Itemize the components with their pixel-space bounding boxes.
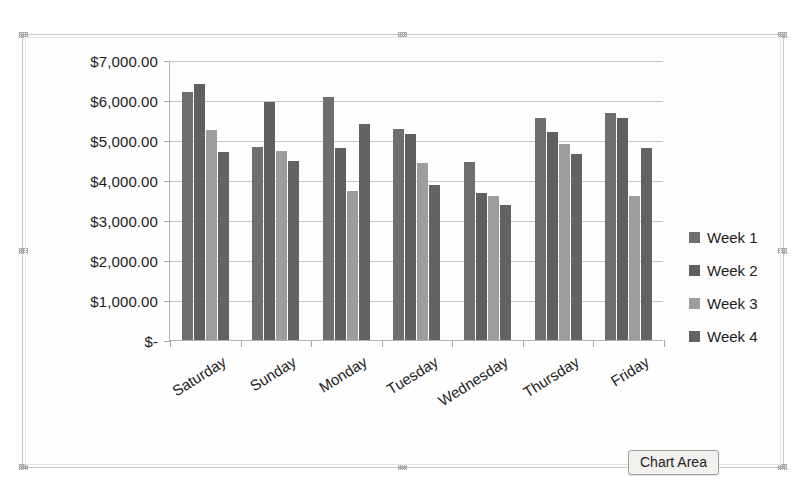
y-axis-label: $7,000.00	[90, 53, 158, 70]
x-axis-tick	[382, 340, 383, 347]
bar[interactable]	[393, 129, 404, 340]
bar[interactable]	[335, 148, 346, 340]
bar-group	[170, 61, 241, 340]
bar[interactable]	[629, 196, 640, 340]
bar[interactable]	[571, 154, 582, 340]
x-axis-category-label: Friday	[608, 353, 652, 390]
bar[interactable]	[488, 196, 499, 340]
bar-group	[382, 61, 453, 340]
bar[interactable]	[218, 152, 229, 340]
bar[interactable]	[276, 151, 287, 340]
bar[interactable]	[547, 132, 558, 340]
chart-legend[interactable]: Week 1Week 2Week 3Week 4	[689, 221, 781, 353]
y-axis-label: $6,000.00	[90, 93, 158, 110]
y-axis-label: $-	[144, 333, 158, 350]
chart-object[interactable]: $7,000.00$6,000.00$5,000.00$4,000.00$3,0…	[22, 34, 784, 468]
bar[interactable]	[476, 193, 487, 340]
bar-group	[452, 61, 523, 340]
x-axis-tick	[452, 340, 453, 347]
legend-label: Week 1	[707, 229, 758, 246]
legend-item[interactable]: Week 3	[689, 287, 781, 320]
bar[interactable]	[194, 84, 205, 340]
bar[interactable]	[617, 118, 628, 340]
legend-item[interactable]: Week 2	[689, 254, 781, 287]
y-axis-label: $4,000.00	[90, 173, 158, 190]
bar[interactable]	[641, 148, 652, 340]
x-axis-category-label: Wednesday	[435, 353, 511, 409]
legend-label: Week 3	[707, 295, 758, 312]
selection-handle-top-left[interactable]	[19, 32, 28, 38]
plot-area[interactable]	[169, 61, 663, 341]
bar-group	[523, 61, 594, 340]
bar[interactable]	[417, 163, 428, 340]
bar[interactable]	[359, 124, 370, 340]
selection-handle-top-center[interactable]	[398, 32, 407, 38]
bar[interactable]	[323, 97, 334, 340]
chart-area-tooltip: Chart Area	[628, 450, 719, 475]
x-axis-tick	[170, 340, 171, 347]
x-axis-category-label: Monday	[316, 353, 370, 396]
bar[interactable]	[288, 161, 299, 340]
bar-group	[593, 61, 664, 340]
x-axis-tick	[523, 340, 524, 347]
x-axis-tick	[311, 340, 312, 347]
bar[interactable]	[206, 130, 217, 340]
selection-handle-bottom-center[interactable]	[398, 464, 407, 470]
y-axis-label: $1,000.00	[90, 293, 158, 310]
selection-handle-middle-left[interactable]	[19, 248, 28, 254]
x-axis-category-label: Thursday	[520, 353, 582, 401]
selection-handle-bottom-right[interactable]	[778, 464, 787, 470]
plot-wrap: $7,000.00$6,000.00$5,000.00$4,000.00$3,0…	[169, 61, 663, 341]
legend-item[interactable]: Week 4	[689, 320, 781, 353]
x-axis-tick	[241, 340, 242, 347]
x-axis-tick	[664, 340, 665, 347]
legend-swatch-icon	[689, 298, 700, 309]
x-axis-category-label: Saturday	[169, 353, 229, 399]
selection-handle-top-right[interactable]	[778, 32, 787, 38]
bar[interactable]	[429, 185, 440, 340]
legend-swatch-icon	[689, 331, 700, 342]
legend-swatch-icon	[689, 265, 700, 276]
bar[interactable]	[500, 205, 511, 340]
x-axis-category-label: Tuesday	[383, 353, 440, 398]
bar[interactable]	[347, 191, 358, 340]
y-axis-label: $3,000.00	[90, 213, 158, 230]
selection-handle-bottom-left[interactable]	[19, 464, 28, 470]
bar-group	[241, 61, 312, 340]
bar[interactable]	[559, 144, 570, 340]
bar[interactable]	[464, 162, 475, 340]
y-axis-label: $2,000.00	[90, 253, 158, 270]
bar-group	[311, 61, 382, 340]
x-axis-tick	[593, 340, 594, 347]
bar[interactable]	[182, 92, 193, 340]
bar[interactable]	[405, 134, 416, 340]
legend-label: Week 2	[707, 262, 758, 279]
legend-label: Week 4	[707, 328, 758, 345]
bar[interactable]	[264, 102, 275, 340]
legend-item[interactable]: Week 1	[689, 221, 781, 254]
bar[interactable]	[535, 118, 546, 340]
x-axis-category-label: Sunday	[247, 353, 299, 394]
y-axis-label: $5,000.00	[90, 133, 158, 150]
legend-swatch-icon	[689, 232, 700, 243]
bar[interactable]	[605, 113, 616, 340]
bar[interactable]	[252, 147, 263, 340]
